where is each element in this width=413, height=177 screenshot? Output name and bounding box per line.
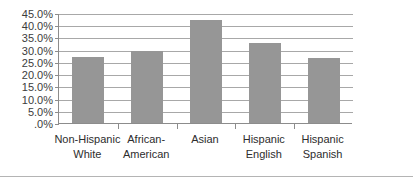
y-axis-tick-label: 20.0% <box>5 70 53 81</box>
y-axis-tick <box>55 87 59 88</box>
y-axis-tick-label: 40.0% <box>5 21 53 32</box>
gridline <box>59 14 353 15</box>
x-axis-tick <box>177 124 178 129</box>
x-axis-tick <box>235 124 236 129</box>
y-axis-tick <box>55 38 59 39</box>
x-axis-tick <box>294 124 295 129</box>
y-axis-tick <box>55 14 59 15</box>
bar <box>72 57 104 123</box>
x-axis-category-label-line: Spanish <box>286 147 359 162</box>
y-axis-tick-label: 35.0% <box>5 33 53 44</box>
y-axis-tick <box>55 51 59 52</box>
plot-area: 45.0%40.0%35.0%30.0%25.0%20.0%15.0%10.0%… <box>58 14 352 124</box>
y-axis-tick <box>55 75 59 76</box>
y-axis-tick-label: 45.0% <box>5 9 53 20</box>
bar <box>308 58 340 123</box>
x-axis-tick <box>118 124 119 129</box>
bar <box>249 43 281 123</box>
y-axis-tick <box>55 26 59 27</box>
x-axis-category-label-line: Hispanic <box>286 132 359 147</box>
bar <box>131 51 163 123</box>
y-axis-tick-label: 25.0% <box>5 57 53 68</box>
y-axis-tick-label: .0% <box>5 119 53 130</box>
y-axis-tick <box>55 112 59 113</box>
chart-frame: 45.0%40.0%35.0%30.0%25.0%20.0%15.0%10.0%… <box>0 0 413 177</box>
bar <box>190 20 222 123</box>
y-axis-tick <box>55 100 59 101</box>
y-axis-tick <box>55 124 59 125</box>
y-axis-tick-label: 15.0% <box>5 82 53 93</box>
y-axis-tick <box>55 63 59 64</box>
y-axis-tick-label: 5.0% <box>5 106 53 117</box>
x-axis-category-label-line: American <box>110 147 183 162</box>
x-axis-category-label: HispanicSpanish <box>286 132 359 162</box>
x-axis-category-labels: Non-HispanicWhiteAfrican-AmericanAsianHi… <box>58 132 352 172</box>
y-axis-tick-label: 30.0% <box>5 45 53 56</box>
y-axis-tick-label: 10.0% <box>5 94 53 105</box>
